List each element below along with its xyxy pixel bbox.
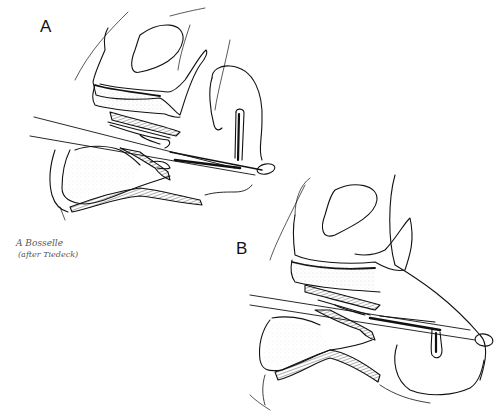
panel-a-drawing	[30, 8, 276, 220]
signature-name: A Bosselle	[16, 238, 63, 248]
illustration-canvas	[0, 0, 504, 417]
panel-b-drawing	[250, 175, 494, 410]
panel-label-b: B	[236, 239, 247, 259]
medical-illustration: A B A Bosselle (after Tiedeck)	[0, 0, 504, 417]
panel-label-a: A	[40, 17, 51, 37]
artist-signature: A Bosselle (after Tiedeck)	[16, 238, 78, 260]
signature-credit: (after Tiedeck)	[18, 249, 78, 260]
